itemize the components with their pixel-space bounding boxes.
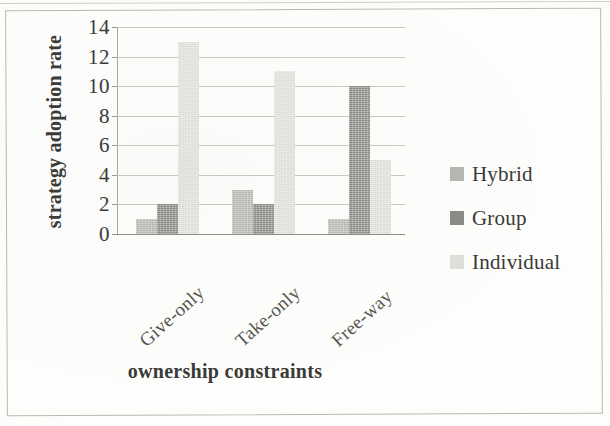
scan-top-edge <box>0 1 610 4</box>
chart-page: strategy adoption rate 02468101214 Give-… <box>0 0 610 426</box>
bar-group-take-only[interactable] <box>253 204 274 234</box>
x-axis-label-give-only: Give-only <box>135 282 209 352</box>
x-axis-label-free-way: Free-way <box>327 285 397 351</box>
bar-hybrid-give-only[interactable] <box>136 219 157 234</box>
legend-label: Hybrid <box>472 162 533 187</box>
bar-group <box>232 27 295 234</box>
bar-individual-take-only[interactable] <box>274 71 295 234</box>
legend-item-hybrid[interactable]: Hybrid <box>450 152 600 196</box>
y-axis-tick-label: 10 <box>88 76 110 97</box>
bar-group-free-way[interactable] <box>349 86 370 234</box>
bars-layer <box>117 27 405 234</box>
bar-group-give-only[interactable] <box>157 204 178 234</box>
y-axis-tick <box>112 234 117 235</box>
y-axis-tick-label: 14 <box>88 17 110 38</box>
bar-hybrid-free-way[interactable] <box>328 219 349 234</box>
legend-item-individual[interactable]: Individual <box>450 240 600 284</box>
y-axis-tick-labels: 02468101214 <box>72 27 110 235</box>
x-axis-line <box>117 234 405 235</box>
legend-label: Group <box>472 206 527 231</box>
bar-individual-free-way[interactable] <box>370 160 391 234</box>
x-axis-label-take-only: Take-only <box>231 282 305 352</box>
legend-label: Individual <box>472 250 560 275</box>
y-axis-tick-label: 2 <box>99 194 110 215</box>
legend-swatch-group-icon <box>450 211 464 225</box>
y-axis-tick-label: 6 <box>99 135 110 156</box>
plot-area <box>117 27 405 235</box>
bar-hybrid-take-only[interactable] <box>232 190 253 234</box>
y-axis-tick-label: 12 <box>88 47 110 68</box>
y-axis-title: strategy adoption rate <box>43 17 66 247</box>
legend-swatch-individual-icon <box>450 255 464 269</box>
y-axis-tick-label: 0 <box>99 224 110 245</box>
legend-swatch-hybrid-icon <box>450 167 464 181</box>
y-axis-tick-label: 4 <box>99 165 110 186</box>
bar-group <box>136 27 199 234</box>
x-axis-title: ownership constraints <box>0 360 450 383</box>
bar-group <box>328 27 391 234</box>
legend-item-group[interactable]: Group <box>450 196 600 240</box>
chart-legend: HybridGroupIndividual <box>450 152 600 284</box>
y-axis-tick-label: 8 <box>99 106 110 127</box>
bar-individual-give-only[interactable] <box>178 42 199 234</box>
